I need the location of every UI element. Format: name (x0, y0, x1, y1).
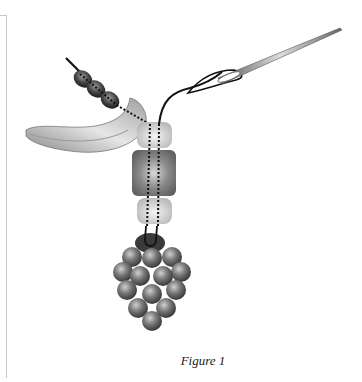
figure-caption: Figure 1 (0, 351, 362, 369)
needle (217, 28, 342, 84)
seed-beads (70, 67, 123, 113)
bottom-light-bead (137, 198, 172, 224)
berry-cluster (113, 233, 191, 331)
top-light-bead (137, 122, 172, 148)
beading-illustration (0, 0, 362, 382)
thread-to-needle (159, 72, 222, 124)
crescent-bead (26, 98, 146, 152)
figure-caption-text: Figure 1 (181, 353, 226, 368)
center-dark-bead (132, 150, 176, 196)
thread-tail (66, 58, 80, 72)
